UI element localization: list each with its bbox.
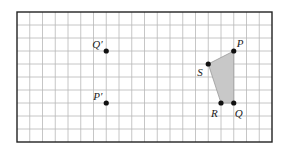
point-s-dot bbox=[206, 61, 211, 66]
point-q-label: Q bbox=[235, 107, 243, 119]
point-r-label: R bbox=[210, 107, 218, 119]
point-q-dot bbox=[231, 100, 236, 105]
point-s-label: S bbox=[197, 66, 203, 78]
point-p-label: P bbox=[236, 37, 244, 49]
point-qp-label: Q′ bbox=[92, 38, 103, 50]
point-p-dot bbox=[231, 48, 236, 53]
point-r-dot bbox=[218, 100, 223, 105]
coordinate-grid-diagram: PQRSQ′P′ bbox=[0, 0, 286, 150]
point-pp-label: P′ bbox=[92, 90, 103, 102]
point-qp-dot bbox=[104, 48, 109, 53]
point-pp-dot bbox=[104, 100, 109, 105]
